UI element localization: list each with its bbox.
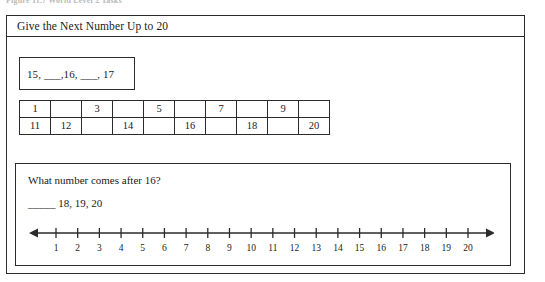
worksheet-title-bar: Give the Next Number Up to 20 <box>7 16 524 37</box>
number-line-tick-label: 20 <box>463 243 473 253</box>
number-line-tick-label: 6 <box>162 243 167 253</box>
sequence-exercise-text: 15, ___,16, ___, 17 <box>20 68 114 80</box>
number-line-tick-label: 15 <box>355 243 365 253</box>
number-grid-row: 13579 <box>20 101 330 118</box>
number-grid-cell: 9 <box>268 101 299 118</box>
number-line-tick-label: 11 <box>268 243 277 253</box>
number-line-tick-label: 19 <box>442 243 452 253</box>
number-line-tick-label: 2 <box>75 243 80 253</box>
number-grid-cell: 12 <box>51 118 82 135</box>
number-grid-blank-cell <box>51 101 82 118</box>
question-panel: What number comes after 16? _____ 18, 19… <box>15 163 511 266</box>
number-grid-cell: 16 <box>175 118 206 135</box>
number-line-tick-label: 3 <box>97 243 102 253</box>
number-grid-blank-cell <box>268 118 299 135</box>
sequence-exercise-box: 15, ___,16, ___, 17 <box>19 57 135 90</box>
number-line-tick-label: 12 <box>290 243 300 253</box>
number-grid-row: 111214161820 <box>20 118 330 135</box>
number-line-tick-label: 5 <box>140 243 145 253</box>
number-line-tick-label: 4 <box>119 243 124 253</box>
number-line-tick-label: 14 <box>333 243 343 253</box>
number-line-tick-label: 13 <box>311 243 321 253</box>
number-grid-blank-cell <box>175 101 206 118</box>
page-title: Give the Next Number Up to 20 <box>7 20 168 32</box>
number-line-tick-label: 16 <box>377 243 387 253</box>
number-grid-cell: 20 <box>299 118 330 135</box>
number-line-tick-label: 18 <box>420 243 430 253</box>
number-grid-cell: 11 <box>20 118 51 135</box>
number-grid-blank-cell <box>113 101 144 118</box>
number-grid-cell: 5 <box>144 101 175 118</box>
number-grid-cell: 3 <box>82 101 113 118</box>
number-line-graphic: 1234567891011121314151617181920 <box>24 221 494 259</box>
number-line-tick-label: 8 <box>205 243 210 253</box>
number-grid-cell: 14 <box>113 118 144 135</box>
number-grid-cell: 7 <box>206 101 237 118</box>
number-line-tick-label: 7 <box>184 243 189 253</box>
number-line-tick-label: 10 <box>246 243 256 253</box>
number-line-tick-label: 17 <box>398 243 408 253</box>
answer-blank-line: _____ 18, 19, 20 <box>28 197 102 209</box>
number-grid-blank-cell <box>206 118 237 135</box>
number-grid-cell: 18 <box>237 118 268 135</box>
number-line-tick-label: 9 <box>227 243 232 253</box>
question-prompt: What number comes after 16? <box>28 174 161 186</box>
number-line-tick-label: 1 <box>54 243 59 253</box>
number-grid-body: 13579111214161820 <box>20 101 330 135</box>
number-grid-blank-cell <box>82 118 113 135</box>
number-grid-blank-cell <box>299 101 330 118</box>
number-grid-blank-cell <box>144 118 175 135</box>
number-line-right-arrow-icon <box>486 229 494 238</box>
number-grid-cell: 1 <box>20 101 51 118</box>
number-grid-blank-cell <box>237 101 268 118</box>
worksheet-frame: Give the Next Number Up to 20 15, ___,16… <box>6 15 525 274</box>
number-line: 1234567891011121314151617181920 <box>24 221 494 259</box>
figure-caption: Figure 11.7 World Level 2 Tasks <box>6 0 306 6</box>
number-grid: 13579111214161820 <box>19 100 330 135</box>
number-line-left-arrow-icon <box>29 229 38 238</box>
